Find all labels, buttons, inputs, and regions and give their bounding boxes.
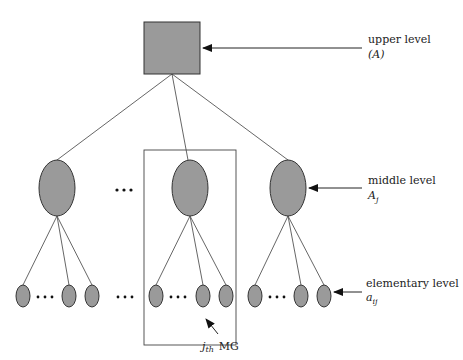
- elementary-node: [85, 285, 99, 307]
- elementary-node: [248, 285, 262, 307]
- elementary-group-j: [149, 285, 233, 307]
- elementary-node: [62, 285, 76, 307]
- middle-node-j: [172, 160, 208, 216]
- elementary-node: [196, 285, 210, 307]
- elementary-node: [219, 285, 233, 307]
- middle-node-last: [270, 160, 306, 216]
- elementary-node: [294, 285, 308, 307]
- edges-upper-to-middle: [57, 74, 288, 160]
- elementary-node: [149, 285, 163, 307]
- elementary-group-last: [248, 285, 331, 307]
- elementary-node: [16, 285, 30, 307]
- edges-middle-to-elementary: [23, 216, 324, 285]
- elementary-group-1: [16, 285, 99, 307]
- elementary-level-title: elementary level: [366, 277, 459, 290]
- elementary-node: [317, 285, 331, 307]
- middle-ellipsis: [115, 188, 132, 191]
- hierarchy-diagram: upper level (A) middle level Aj elementa…: [0, 0, 463, 360]
- mg-arrow: [206, 319, 218, 334]
- upper-level-node: [144, 22, 200, 74]
- middle-level-title: middle level: [368, 174, 436, 187]
- upper-level-symbol: (A): [368, 48, 385, 61]
- upper-level-title: upper level: [368, 33, 431, 46]
- elementary-level-symbol: aij: [366, 291, 378, 306]
- jth-mg-label: jthMG: [199, 340, 239, 354]
- between-groups-ellipsis: [117, 296, 134, 299]
- middle-level-symbol: Aj: [367, 189, 379, 204]
- middle-node-1: [39, 160, 75, 216]
